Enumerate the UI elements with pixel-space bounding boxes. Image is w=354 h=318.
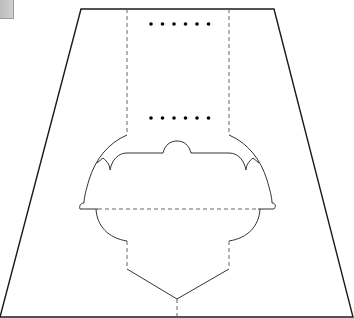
template-diagram — [0, 0, 354, 318]
helmet-dome-cut — [80, 135, 276, 209]
dot-row-bottom — [149, 116, 210, 120]
outer-trapezoid-outline — [0, 9, 353, 317]
helmet-crest-cut — [97, 141, 259, 170]
chin-v-cut — [127, 269, 229, 299]
lower-fold-lines — [127, 241, 229, 317]
upper-fold-lines — [127, 9, 229, 135]
face-curves-cut — [96, 209, 260, 241]
dot-row-top — [149, 22, 210, 26]
